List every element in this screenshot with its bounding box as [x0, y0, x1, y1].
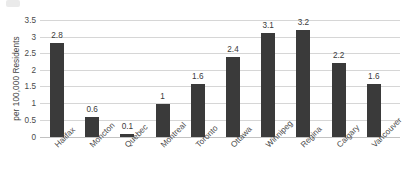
bar-calgary: [332, 63, 346, 137]
bars-layer: 2.80.60.111.62.43.13.22.21.6: [0, 0, 410, 183]
bar-ottawa: [226, 57, 240, 137]
bar-toronto: [191, 84, 205, 137]
bar-value-label: 1: [143, 92, 183, 101]
bar-value-label: 0.6: [72, 105, 112, 114]
bar-winnipeg: [261, 33, 275, 137]
bar-halifax: [50, 43, 64, 137]
bar-value-label: 2.8: [37, 31, 77, 40]
bar-regina: [296, 30, 310, 137]
bar-value-label: 3.1: [248, 21, 288, 30]
bar-value-label: 2.4: [213, 45, 253, 54]
bar-value-label: 3.2: [283, 18, 323, 27]
bar-chart: per 100,000 Residents 0 0.5 1 1.5 2 2.5 …: [0, 0, 410, 183]
bar-value-label: 1.6: [354, 72, 394, 81]
bar-value-label: 1.6: [178, 72, 218, 81]
bar-montreal: [156, 104, 170, 137]
bar-vancouver: [367, 84, 381, 137]
bar-value-label: 2.2: [319, 51, 359, 60]
